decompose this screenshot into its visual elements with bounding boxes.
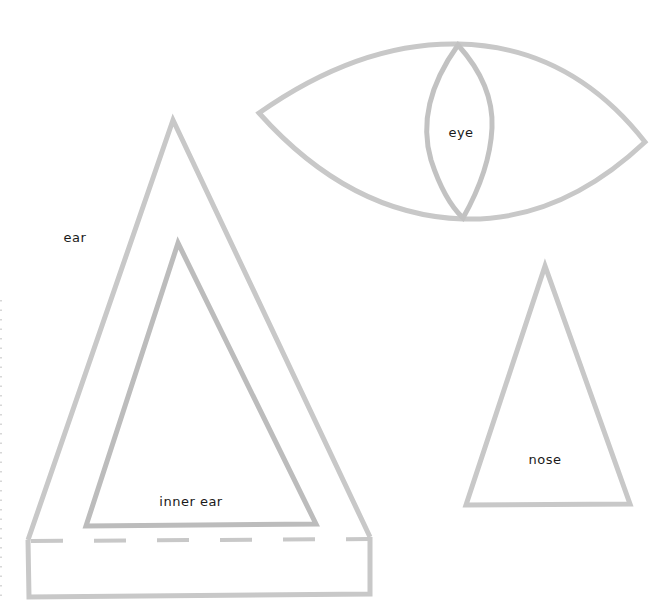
- ear-outline: [28, 120, 370, 540]
- diagram-canvas: ear inner ear eye nose: [0, 0, 664, 610]
- ear-label: ear: [64, 230, 87, 245]
- eye-label: eye: [448, 125, 473, 140]
- ear-fold-line: [31, 539, 370, 541]
- inner-ear-label: inner ear: [159, 494, 222, 509]
- ear-tab-outline: [28, 537, 370, 597]
- nose-label: nose: [529, 452, 562, 467]
- nose-outline: [466, 266, 630, 505]
- inner-ear-outline: [86, 243, 316, 526]
